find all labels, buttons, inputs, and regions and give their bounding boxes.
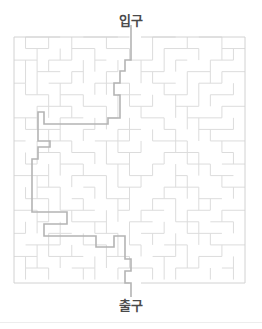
page-root: 입구 출구 [0,0,262,329]
maze-canvas [0,0,262,329]
exit-label: 출구 [0,299,262,312]
maze-walls [14,37,245,280]
footer-divider [0,322,262,323]
